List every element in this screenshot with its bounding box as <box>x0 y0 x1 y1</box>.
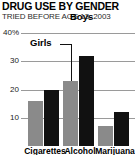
chart-subtitle: TRIED BEFORE AGE 13: 2003 <box>2 12 111 22</box>
drug-use-by-gender-chart: DRUG USE BY GENDER TRIED BEFORE AGE 13: … <box>0 0 135 155</box>
category-label-marijuana: Marijuana <box>94 147 135 155</box>
y-axis-tick-30: 30 <box>0 57 19 65</box>
plot-area: 40%302010 <box>0 24 135 146</box>
series-label-girls: Girls <box>30 38 52 48</box>
category-axis: CigarettesAlcoholMarijuana <box>21 147 135 155</box>
girls-leader-line <box>60 44 71 45</box>
gridline-30 <box>21 61 135 62</box>
bar-girls-cigarettes <box>28 101 43 146</box>
y-axis-tick-20: 20 <box>0 86 19 94</box>
series-label-boys: Boys <box>70 12 93 22</box>
bar-boys-alcohol <box>79 56 94 146</box>
y-axis-tick-40: 40% <box>0 29 19 37</box>
gridline-40 <box>21 33 135 34</box>
chart-title: DRUG USE BY GENDER <box>2 0 119 12</box>
girls-leader-tick <box>71 44 72 81</box>
bar-boys-cigarettes <box>44 90 59 147</box>
bar-girls-alcohol <box>63 81 78 146</box>
bar-girls-marijuana <box>98 126 113 146</box>
gridline-20 <box>21 90 135 91</box>
bar-boys-marijuana <box>114 112 129 146</box>
y-axis-tick-10: 10 <box>0 114 19 122</box>
